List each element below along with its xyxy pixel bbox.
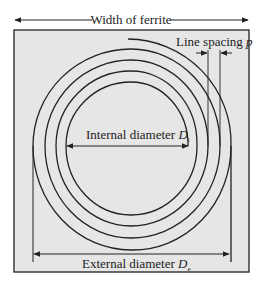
external-diameter-label: External diameter De	[82, 256, 191, 273]
ferrite-spiral-diagram: Width of ferrite Line spacing p Internal…	[0, 0, 262, 290]
width-dimension: Width of ferrite	[15, 12, 248, 27]
ferrite-substrate	[14, 30, 249, 272]
width-label: Width of ferrite	[90, 12, 171, 27]
line-spacing-label: Line spacing p	[176, 34, 253, 49]
internal-diameter-label: Internal diameter Di	[86, 127, 190, 144]
